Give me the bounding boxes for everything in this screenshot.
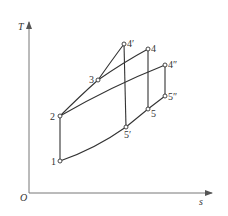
- label-5dprime: 5″: [168, 91, 177, 102]
- point-4dprime: [163, 63, 167, 67]
- label-4: 4: [151, 43, 156, 54]
- ts-diagram: T s O 1 2 3: [0, 0, 228, 216]
- label-5: 5: [151, 108, 156, 119]
- label-3: 3: [89, 74, 94, 85]
- process-3-4prime: [98, 44, 124, 80]
- point-5dprime: [163, 94, 167, 98]
- point-4prime: [122, 42, 126, 46]
- point-5: [146, 107, 150, 111]
- point-1: [58, 159, 62, 163]
- process-4prime-5prime: [124, 44, 126, 127]
- process-5prime-5dprime: [126, 96, 165, 127]
- point-4: [146, 47, 150, 51]
- label-2: 2: [50, 111, 55, 122]
- process-1-5prime: [60, 127, 126, 161]
- label-1: 1: [51, 156, 56, 167]
- label-5prime: 5′: [124, 129, 131, 140]
- point-2: [58, 114, 62, 118]
- s-axis-label: s: [199, 196, 203, 207]
- origin-label: O: [20, 192, 27, 203]
- t-axis-label: T: [18, 21, 25, 32]
- point-3: [96, 78, 100, 82]
- label-4dprime: 4″: [168, 59, 177, 70]
- process-1-5dprime: [60, 96, 165, 161]
- label-4prime: 4′: [127, 38, 134, 49]
